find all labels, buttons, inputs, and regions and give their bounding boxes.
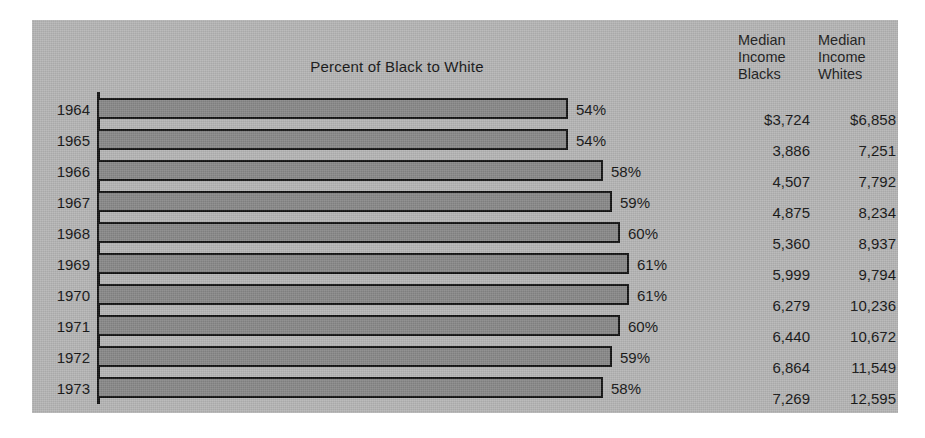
bar <box>99 377 603 398</box>
income-row: 7,26912,595 <box>738 383 898 413</box>
year-label: 1968 <box>32 218 90 249</box>
income-blacks-value: 5,360 <box>738 228 810 259</box>
income-blacks-value: $3,724 <box>738 104 810 135</box>
bar-row: 197358% <box>32 373 738 404</box>
bar-value-label: 60% <box>628 218 658 249</box>
bar-value-label: 59% <box>620 187 650 218</box>
bar-row: 196860% <box>32 218 738 249</box>
chart-figure: Percent of Black to White 196454%196554%… <box>32 20 898 413</box>
income-row: $3,724$6,858 <box>738 104 898 135</box>
income-whites-value: 7,792 <box>818 166 896 197</box>
income-whites-value: 11,549 <box>818 352 896 383</box>
income-whites-value: 10,672 <box>818 321 896 352</box>
bar-value-label: 60% <box>628 311 658 342</box>
year-label: 1972 <box>32 342 90 373</box>
bar <box>99 222 620 243</box>
bar <box>99 315 620 336</box>
year-label: 1971 <box>32 311 90 342</box>
income-whites-value: 7,251 <box>818 135 896 166</box>
income-blacks-value: 3,886 <box>738 135 810 166</box>
income-whites-value: 10,236 <box>818 290 896 321</box>
bar-row: 196554% <box>32 125 738 156</box>
bar-value-label: 54% <box>576 94 606 125</box>
bar <box>99 160 603 181</box>
year-label: 1969 <box>32 249 90 280</box>
bar-row: 196961% <box>32 249 738 280</box>
year-label: 1964 <box>32 94 90 125</box>
chart-title: Percent of Black to White <box>232 58 562 75</box>
bar <box>99 284 629 305</box>
income-blacks-value: 6,864 <box>738 352 810 383</box>
income-row: 4,5077,792 <box>738 166 898 197</box>
income-row: 6,86411,549 <box>738 352 898 383</box>
bar <box>99 129 568 150</box>
bar <box>99 253 629 274</box>
column-header-median-income-whites: Median Income Whites <box>818 32 866 83</box>
bar-value-label: 58% <box>611 373 641 404</box>
bar-value-label: 61% <box>637 280 667 311</box>
income-row: 3,8867,251 <box>738 135 898 166</box>
income-row: 6,27910,236 <box>738 290 898 321</box>
bar <box>99 191 612 212</box>
bar-row: 197259% <box>32 342 738 373</box>
year-label: 1970 <box>32 280 90 311</box>
column-header-median-income-blacks: Median Income Blacks <box>738 32 786 83</box>
year-label: 1967 <box>32 187 90 218</box>
income-row: 5,9999,794 <box>738 259 898 290</box>
income-row: 5,3608,937 <box>738 228 898 259</box>
bar <box>99 346 612 367</box>
income-blacks-value: 6,440 <box>738 321 810 352</box>
bar-row: 196759% <box>32 187 738 218</box>
income-blacks-value: 7,269 <box>738 383 810 413</box>
bar-row: 197160% <box>32 311 738 342</box>
year-label: 1966 <box>32 156 90 187</box>
income-whites-value: 9,794 <box>818 259 896 290</box>
year-label: 1965 <box>32 125 90 156</box>
bar-value-label: 54% <box>576 125 606 156</box>
bar-chart-plot: 196454%196554%196658%196759%196860%19696… <box>32 20 738 413</box>
income-whites-value: $6,858 <box>818 104 896 135</box>
income-row: 4,8758,234 <box>738 197 898 228</box>
bar <box>99 98 568 119</box>
income-blacks-value: 6,279 <box>738 290 810 321</box>
income-blacks-value: 5,999 <box>738 259 810 290</box>
bar-value-label: 61% <box>637 249 667 280</box>
income-row: 6,44010,672 <box>738 321 898 352</box>
bar-row: 196658% <box>32 156 738 187</box>
income-blacks-value: 4,507 <box>738 166 810 197</box>
bar-value-label: 58% <box>611 156 641 187</box>
year-label: 1973 <box>32 373 90 404</box>
bar-value-label: 59% <box>620 342 650 373</box>
income-whites-value: 8,937 <box>818 228 896 259</box>
income-blacks-value: 4,875 <box>738 197 810 228</box>
income-whites-value: 12,595 <box>818 383 896 413</box>
bar-row: 196454% <box>32 94 738 125</box>
bar-row: 197061% <box>32 280 738 311</box>
income-whites-value: 8,234 <box>818 197 896 228</box>
